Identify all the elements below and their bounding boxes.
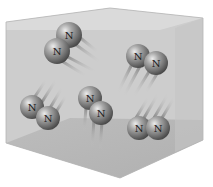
atom-label: N	[135, 123, 144, 134]
atom-label: N	[152, 58, 161, 69]
atom-label: N	[28, 102, 37, 113]
atom-label: N	[53, 46, 62, 57]
diagram-canvas: N N N N N N N N	[0, 0, 213, 187]
atom-label: N	[154, 123, 163, 134]
atom-label: N	[44, 113, 53, 124]
gas-container-diagram: N N N N N N N N	[0, 0, 213, 187]
atom-label: N	[86, 93, 95, 104]
atom-label: N	[134, 51, 143, 62]
atom-label: N	[65, 30, 74, 41]
box-right-face	[175, 18, 203, 152]
atom-label: N	[97, 108, 106, 119]
